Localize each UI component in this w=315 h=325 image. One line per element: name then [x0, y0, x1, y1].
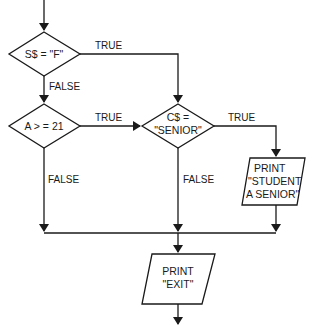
decision-c-equals-senior: C$ = "SENIOR" [142, 104, 214, 148]
decision-a-gte-21: A > = 21 [9, 104, 80, 148]
io1-text-line2: "STUDENT [248, 175, 302, 187]
label-d1-false: FALSE [49, 81, 80, 92]
edge-d3-true [214, 126, 276, 156]
label-d2-false: FALSE [48, 174, 79, 185]
label-d1-true: TRUE [95, 40, 123, 51]
io2-text-line1: PRINT [162, 265, 194, 277]
label-d2-true: TRUE [95, 112, 123, 123]
io1-text-line1: PRINT [254, 162, 286, 174]
io-print-exit: PRINT "EXIT" [142, 254, 215, 304]
io-print-student-a-senior: PRINT "STUDENT A SENIOR" [242, 158, 305, 205]
decision-s-equals-f: S$ = "F" [9, 32, 80, 76]
io2-text-line2: "EXIT" [163, 278, 194, 290]
decision-3-text-line1: C$ = [167, 111, 189, 123]
io1-text-line3: A SENIOR" [246, 188, 300, 200]
label-d3-true: TRUE [228, 112, 256, 123]
decision-2-text: A > = 21 [24, 120, 63, 132]
decision-3-text-line2: "SENIOR" [154, 124, 202, 136]
label-d3-false: FALSE [183, 174, 214, 185]
decision-1-text: S$ = "F" [25, 48, 64, 60]
flowchart: S$ = "F" TRUE FALSE A > = 21 TRUE FALSE … [0, 0, 315, 325]
edge-d1-true [80, 54, 178, 102]
